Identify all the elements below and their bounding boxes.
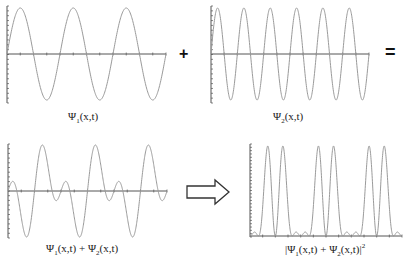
label-args: (x,t)| bbox=[341, 243, 362, 255]
label-args: (x,t) + bbox=[299, 243, 329, 255]
superscript: 2 bbox=[362, 242, 366, 250]
label-probability-density: |Ψ1(x,t) + Ψ2(x,t)|2 bbox=[285, 242, 365, 258]
plot-probability-density bbox=[0, 0, 411, 245]
